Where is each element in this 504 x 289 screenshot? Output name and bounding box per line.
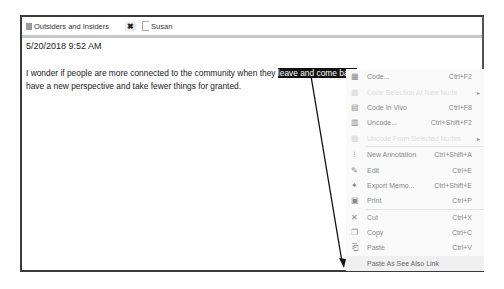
menu-item-label: New Annotation — [367, 151, 434, 158]
menu-item-shortcut: Ctrl+C — [452, 229, 472, 236]
annotation-icon: ⁝ — [350, 150, 359, 159]
context-menu: ▦Code...Ctrl+F2▦Code Selection At New No… — [346, 69, 484, 271]
tab-label: Susan — [151, 22, 172, 31]
menu-item-shortcut: Ctrl+V — [452, 244, 472, 251]
clipboard-icon: ⎗ — [350, 243, 359, 252]
tab-label: Outsiders and Insiders — [34, 22, 109, 31]
submenu-arrow-icon: ▸ — [477, 89, 480, 96]
menu-item-shortcut: Ctrl+X — [452, 214, 472, 221]
menu-item-label: Uncode From Selected Nodes — [367, 135, 472, 142]
menu-item-copy[interactable]: ❐CopyCtrl+C — [346, 225, 484, 240]
menu-item-label: Code In Vivo — [367, 104, 449, 111]
menu-item-label: Copy — [367, 229, 452, 236]
code-new-icon: ▦ — [350, 88, 359, 97]
menu-item-paste[interactable]: ⎗PasteCtrl+V — [346, 240, 484, 255]
menu-item-shortcut: Ctrl+Shift+A — [434, 151, 472, 158]
menu-item-uncode-from-selected-nodes: ▦Uncode From Selected Nodes▸ — [346, 131, 484, 146]
menu-item-code-selection-at-new-node: ▦Code Selection At New Node▸ — [346, 84, 484, 99]
menu-item-shortcut: Ctrl+Shift+F2 — [431, 119, 472, 126]
menu-item-cut[interactable]: ✕CutCtrl+X — [346, 210, 484, 225]
menu-item-label: Edit — [367, 167, 452, 174]
memo-timestamp: 5/20/2018 9:52 AM — [26, 41, 102, 51]
uncode-icon: ▥ — [350, 118, 359, 127]
menu-item-paste-as-see-also-link[interactable]: Paste As See Also Link — [346, 256, 484, 271]
menu-item-label: Code Selection At New Node — [367, 89, 472, 96]
menu-item-label: Export Memo... — [367, 182, 434, 189]
tab-outsiders-and-insiders[interactable]: Outsiders and Insiders — [26, 22, 109, 31]
document-icon — [26, 23, 32, 30]
printer-icon: ▣ — [350, 196, 359, 205]
menu-item-shortcut: Ctrl+P — [452, 197, 472, 204]
menu-item-label: Paste — [367, 244, 452, 251]
menu-item-code-in-vivo[interactable]: ▤Code In VivoCtrl+F8 — [346, 100, 484, 115]
tab-strip: Outsiders and Insiders ✖ Susan — [22, 17, 482, 38]
menu-item-print[interactable]: ▣PrintCtrl+P — [346, 193, 484, 208]
submenu-arrow-icon: ▸ — [477, 135, 480, 142]
menu-item-uncode[interactable]: ▥Uncode...Ctrl+Shift+F2 — [346, 115, 484, 130]
menu-item-label: Uncode... — [367, 119, 431, 126]
menu-item-new-annotation[interactable]: ⁝New AnnotationCtrl+Shift+A — [346, 147, 484, 162]
menu-item-edit[interactable]: ✎EditCtrl+E — [346, 162, 484, 177]
menu-item-export-memo[interactable]: ✦Export Memo...Ctrl+Shift+E — [346, 178, 484, 193]
tab-susan[interactable]: Susan — [142, 21, 172, 31]
code-icon: ▦ — [350, 72, 359, 81]
menu-item-shortcut: Ctrl+E — [452, 167, 472, 174]
uncode-selected-icon: ▦ — [350, 134, 359, 143]
menu-item-label: Cut — [367, 214, 452, 221]
close-icon[interactable]: ✖ — [125, 22, 136, 31]
menu-item-shortcut: Ctrl+F8 — [449, 104, 472, 111]
menu-item-shortcut: Ctrl+Shift+E — [434, 182, 472, 189]
menu-item-label: Paste As See Also Link — [367, 260, 472, 267]
menu-item-code[interactable]: ▦Code...Ctrl+F2 — [346, 69, 484, 84]
copy-icon: ❐ — [350, 228, 359, 237]
scissors-icon: ✕ — [350, 213, 359, 222]
menu-item-label: Code... — [367, 73, 449, 80]
page-icon — [142, 21, 149, 31]
export-icon: ✦ — [350, 181, 359, 190]
memo-text: I wonder if people are more connected to… — [26, 68, 278, 78]
code-in-vivo-icon: ▤ — [350, 103, 359, 112]
menu-item-shortcut: Ctrl+F2 — [449, 73, 472, 80]
menu-item-label: Print — [367, 197, 452, 204]
link-icon — [350, 259, 359, 268]
pencil-icon: ✎ — [350, 166, 359, 175]
